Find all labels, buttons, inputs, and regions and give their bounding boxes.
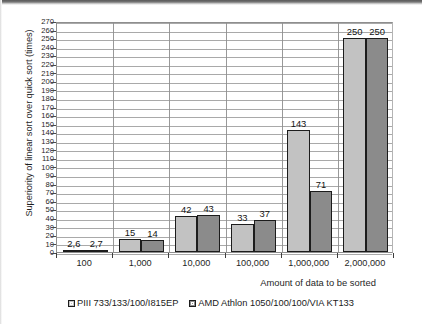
x-axis-title: Amount of data to be sorted — [228, 277, 408, 288]
y-axis-tick-mark — [51, 31, 56, 32]
bar[interactable] — [63, 250, 85, 252]
x-axis-tick-label: 1,000,000 — [281, 258, 337, 268]
bar[interactable] — [231, 224, 253, 252]
legend-item[interactable]: PIII 733/133/100/I815EP — [68, 298, 178, 308]
bar-value-label: 71 — [304, 180, 338, 190]
bar-value-label: 2,7 — [79, 239, 113, 249]
legend-item[interactable]: AMD Athlon 1050/100/100/VIA KT133 — [189, 298, 354, 308]
y-axis-tick-mark — [51, 167, 56, 168]
bar-group: 2,62,7 — [57, 23, 113, 252]
legend-swatch-icon — [68, 300, 75, 307]
bar[interactable] — [310, 191, 332, 252]
y-axis-tick-mark — [51, 108, 56, 109]
x-axis-tick-mark — [56, 253, 57, 258]
x-axis-tick-mark — [281, 253, 282, 258]
x-axis-tick-mark — [393, 253, 394, 258]
bar[interactable] — [254, 220, 276, 252]
y-axis-tick-mark — [51, 48, 56, 49]
x-axis-tick-label: 10,000 — [168, 258, 224, 268]
y-axis-tick-mark — [51, 193, 56, 194]
x-axis-tick-mark — [112, 253, 113, 258]
y-axis-tick-mark — [51, 99, 56, 100]
y-axis-tick-mark — [51, 202, 56, 203]
bar-group: 1514 — [113, 23, 169, 252]
y-axis-tick-mark — [51, 176, 56, 177]
x-axis-tick-label: 100 — [56, 258, 112, 268]
bar[interactable] — [175, 216, 197, 252]
bar-value-label: 37 — [248, 209, 282, 219]
y-axis-tick-mark — [51, 236, 56, 237]
y-axis-tick-mark — [51, 65, 56, 66]
y-axis-tick-mark — [51, 210, 56, 211]
plot-area: 2,62,715144243333714371250250 — [56, 22, 393, 253]
y-axis-tick-mark — [51, 73, 56, 74]
bar-group: 3337 — [226, 23, 282, 252]
bar[interactable] — [141, 240, 163, 252]
y-axis-tick-mark — [51, 116, 56, 117]
x-axis-tick-label: 100,000 — [225, 258, 281, 268]
y-axis-tick-mark — [51, 142, 56, 143]
y-axis-tick-mark — [51, 133, 56, 134]
y-axis-tick-mark — [51, 244, 56, 245]
x-axis-tick-label: 2,000,000 — [337, 258, 393, 268]
y-axis-tick-mark — [51, 159, 56, 160]
bar[interactable] — [119, 239, 141, 252]
bar[interactable] — [366, 38, 388, 252]
legend-swatch-icon — [189, 300, 196, 307]
bar-value-label: 14 — [135, 229, 169, 239]
bar-chart: Superiority of linear sort over quick so… — [0, 0, 422, 324]
x-axis-tick-label: 1,000 — [112, 258, 168, 268]
bar-group: 14371 — [282, 23, 338, 252]
bar[interactable] — [287, 130, 309, 252]
bar[interactable] — [343, 38, 365, 252]
y-axis-tick-mark — [51, 39, 56, 40]
bar[interactable] — [197, 215, 219, 252]
legend-item-label: PIII 733/133/100/I815EP — [77, 298, 178, 308]
y-axis-tick-mark — [51, 56, 56, 57]
y-axis-tick-mark — [51, 227, 56, 228]
x-axis-tick-mark — [337, 253, 338, 258]
y-axis-tick-mark — [51, 150, 56, 151]
x-axis-tick-mark — [168, 253, 169, 258]
bar-group: 250250 — [338, 23, 394, 252]
chart-legend: PIII 733/133/100/I815EPAMD Athlon 1050/1… — [0, 298, 422, 308]
x-axis-tick-mark — [225, 253, 226, 258]
y-axis-tick-mark — [51, 22, 56, 23]
bar-value-label: 250 — [360, 27, 394, 37]
bar-group: 4243 — [169, 23, 225, 252]
bar-value-label: 43 — [191, 204, 225, 214]
bar[interactable] — [85, 250, 107, 252]
y-axis-tick-mark — [51, 90, 56, 91]
y-axis-tick-mark — [51, 219, 56, 220]
bar-value-label: 143 — [281, 119, 315, 129]
y-axis-tick-mark — [51, 125, 56, 126]
y-axis-tick-mark — [51, 82, 56, 83]
y-axis-tick-mark — [51, 185, 56, 186]
legend-item-label: AMD Athlon 1050/100/100/VIA KT133 — [198, 298, 354, 308]
